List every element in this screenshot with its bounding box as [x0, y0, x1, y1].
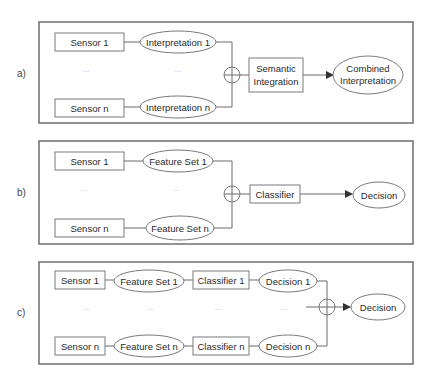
feature-set-1-label: Feature Set 1: [149, 156, 207, 167]
feature-set-n-label: Feature Set n: [151, 223, 209, 234]
ellipsis: ...: [83, 65, 90, 74]
ellipsis: ...: [83, 303, 90, 312]
feature-set-n-label: Feature Set n: [120, 341, 178, 352]
combined-interpretation-label-1: Combined: [346, 63, 389, 74]
panel-a: a) Sensor 1 Interpretation 1 ... ... Sen…: [17, 22, 413, 123]
sensor-1-label: Sensor 1: [70, 156, 108, 167]
panel-a-label: a): [17, 68, 26, 79]
sensor-1-label: Sensor 1: [70, 37, 108, 48]
decision-1-label: Decision 1: [266, 276, 310, 287]
feature-set-1-label: Feature Set 1: [120, 276, 178, 287]
panel-b-label: b): [17, 187, 26, 198]
decision-label: Decision: [361, 190, 397, 201]
sensor-n-label: Sensor n: [61, 341, 99, 352]
decision-n-label: Decision n: [266, 341, 310, 352]
ellipsis: ...: [281, 303, 288, 312]
ellipsis: ...: [175, 65, 182, 74]
fusion-diagram: a) Sensor 1 Interpretation 1 ... ... Sen…: [0, 0, 435, 383]
interpretation-n-label: Interpretation n: [146, 102, 210, 113]
sensor-n-label: Sensor n: [70, 223, 108, 234]
classifier-label: Classifier: [255, 189, 294, 200]
panel-c-label: c): [17, 307, 25, 318]
ellipsis: ...: [147, 303, 154, 312]
combined-interpretation-label-2: Interpretation: [340, 75, 396, 86]
classifier-1-label: Classifier 1: [198, 275, 245, 286]
ellipsis: ...: [215, 303, 222, 312]
ellipsis: ...: [173, 184, 180, 193]
sensor-n-label: Sensor n: [70, 103, 108, 114]
decision-label: Decision: [360, 302, 396, 313]
interpretation-1-label: Interpretation 1: [146, 37, 210, 48]
panel-c: c) Sensor 1 Feature Set 1 Classifier 1 D…: [17, 262, 413, 364]
sensor-1-label: Sensor 1: [61, 275, 99, 286]
classifier-n-label: Classifier n: [198, 341, 245, 352]
semantic-integration-label-2: Integration: [254, 76, 299, 87]
panel-b: b) Sensor 1 Feature Set 1 ... ... Sensor…: [17, 141, 413, 244]
ellipsis: ...: [81, 184, 88, 193]
semantic-integration-label-1: Semantic: [256, 63, 296, 74]
